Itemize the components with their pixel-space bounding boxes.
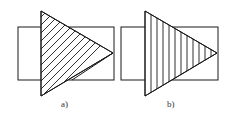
figure-a-label: a) xyxy=(61,99,68,109)
diagram-canvas xyxy=(0,0,231,117)
figure-b-label: b) xyxy=(167,99,175,109)
figure-a xyxy=(18,11,135,101)
